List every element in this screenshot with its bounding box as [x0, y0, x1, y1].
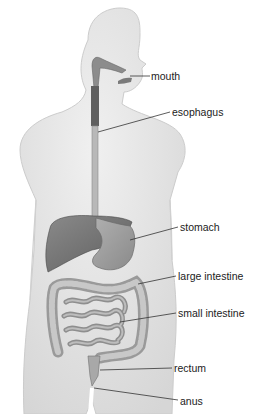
label-esophagus: esophagus	[172, 106, 223, 118]
label-anus: anus	[180, 395, 203, 407]
label-rectum: rectum	[174, 362, 206, 374]
digestive-system-diagram	[0, 0, 262, 414]
esophagus-organ	[91, 86, 99, 218]
label-large-intestine: large intestine	[178, 270, 243, 282]
label-small-intestine: small intestine	[178, 307, 245, 319]
label-mouth: mouth	[151, 70, 180, 82]
label-stomach: stomach	[180, 221, 220, 233]
